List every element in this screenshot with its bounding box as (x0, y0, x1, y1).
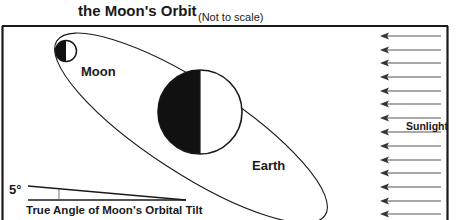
moon-orbit-diagram: the Moon's Orbit (Not to scale) Earth Mo… (0, 0, 456, 220)
sunlight-label: Sunlight (406, 120, 448, 132)
sunlight-arrow-icon (380, 157, 441, 164)
moon-night-side (56, 41, 66, 62)
sunlight-arrow-icon (380, 170, 441, 177)
sunlight-arrow-icon (380, 101, 441, 108)
earth-globe (158, 70, 242, 154)
moon-label: Moon (81, 64, 116, 79)
sunlight-arrow-icon (380, 88, 441, 95)
sunlight-arrow-icon (380, 74, 441, 81)
sunlight-arrow-icon (380, 143, 441, 150)
sunlight-arrow-icon (380, 47, 441, 54)
sunlight-arrow-icon (380, 60, 441, 67)
sunlight-arrow-icon (380, 184, 441, 191)
sunlight-arrow-icon (380, 211, 441, 218)
tilt-angle-indicator (28, 186, 186, 200)
sunlight-arrow-icon (380, 198, 441, 205)
moon-globe (56, 41, 77, 62)
tilt-angle-label: 5° (9, 182, 21, 197)
sunlight-arrow-icon (380, 33, 441, 40)
diagram-title: the Moon's Orbit (78, 2, 197, 19)
earth-night-side (158, 70, 200, 154)
not-to-scale-note: (Not to scale) (198, 11, 263, 23)
tilt-caption: True Angle of Moon's Orbital Tilt (26, 204, 203, 216)
earth-label: Earth (252, 158, 285, 173)
